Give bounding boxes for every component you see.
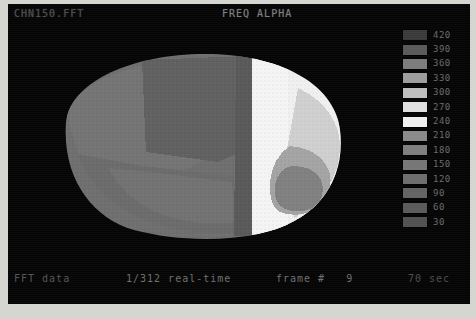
screenshot-frame: CHN150.FFT FREQ ALPHA <box>0 0 476 319</box>
topomap-canvas <box>22 26 382 274</box>
footer-elapsed-time: 70 sec <box>408 273 450 286</box>
colorbar-swatch <box>402 116 428 128</box>
colorbar-step: 360 <box>400 57 466 71</box>
colorbar-step: 210 <box>400 129 466 143</box>
colorbar-step: 420 <box>400 28 466 42</box>
colorbar-label: 210 <box>433 131 451 140</box>
colorbar-label: 90 <box>433 189 445 198</box>
colorbar-swatch <box>402 144 428 156</box>
colorbar-swatch <box>402 29 428 41</box>
colorbar-legend: 420 390 360 330 300 270 <box>400 28 466 264</box>
footer-frame-counter: frame # 9 <box>276 273 353 286</box>
colorbar-step: 270 <box>400 100 466 114</box>
colorbar-swatch <box>402 72 428 84</box>
colorbar-swatch <box>402 101 428 113</box>
topographic-map[interactable] <box>22 26 382 274</box>
colorbar-step: 60 <box>400 201 466 215</box>
colorbar-label: 240 <box>433 117 451 126</box>
colorbar-step: 330 <box>400 71 466 85</box>
colorbar-step: 30 <box>400 215 466 229</box>
colorbar-label: 150 <box>433 160 451 169</box>
colorbar-swatch <box>402 202 428 214</box>
colorbar-swatch <box>402 187 428 199</box>
colorbar-label: 330 <box>433 74 451 83</box>
colorbar-swatch <box>402 159 428 171</box>
colorbar-label: 420 <box>433 31 451 40</box>
colorbar-label: 30 <box>433 218 445 227</box>
header-band-label: FREQ ALPHA <box>222 8 292 21</box>
colorbar-swatch <box>402 173 428 185</box>
colorbar-label: 390 <box>433 45 451 54</box>
colorbar-swatch <box>402 44 428 56</box>
colorbar-step: 390 <box>400 42 466 56</box>
colorbar-label: 300 <box>433 88 451 97</box>
colorbar-swatch <box>402 87 428 99</box>
colorbar-step: 300 <box>400 86 466 100</box>
footer-data-type: FFT data <box>14 273 70 286</box>
colorbar-step: 90 <box>400 186 466 200</box>
colorbar-label: 180 <box>433 146 451 155</box>
pixelation-overlay <box>22 26 382 274</box>
colorbar-swatch <box>402 58 428 70</box>
colorbar-step: 180 <box>400 143 466 157</box>
colorbar-swatch <box>402 130 428 142</box>
colorbar-label: 120 <box>433 175 451 184</box>
colorbar-step: 150 <box>400 158 466 172</box>
colorbar-label: 360 <box>433 59 451 68</box>
colorbar-label: 270 <box>433 103 451 112</box>
crt-screen: CHN150.FFT FREQ ALPHA <box>8 4 470 304</box>
header-filename: CHN150.FFT <box>14 8 84 21</box>
colorbar-step: 240 <box>400 114 466 128</box>
colorbar-step: 120 <box>400 172 466 186</box>
footer-playback-rate: 1/312 real-time <box>126 273 231 286</box>
colorbar-swatch <box>402 216 428 228</box>
colorbar-label: 60 <box>433 203 445 212</box>
